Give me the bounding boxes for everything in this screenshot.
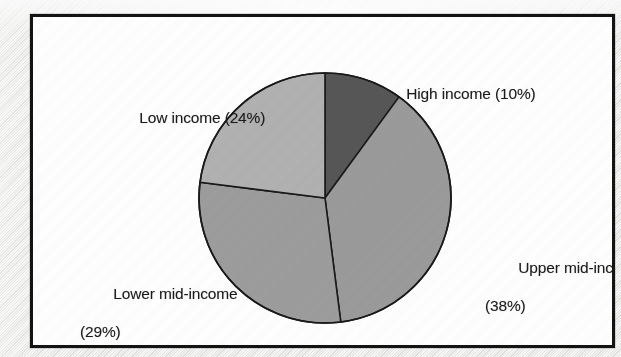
- figure-frame: High income (10%) Low income (24%) Upper…: [30, 14, 615, 348]
- figure-plot-area: High income (10%) Low income (24%) Upper…: [33, 17, 612, 345]
- pie-label-upper-mid-income-line2: (38%): [485, 296, 612, 315]
- pie-label-lower-mid-income: Lower mid-income (29%): [80, 265, 238, 345]
- pie-label-lower-mid-income-line1: Lower mid-income: [113, 285, 237, 302]
- pie-label-low-income: Low income (24%): [106, 89, 265, 146]
- pie-label-low-income-text: Low income (24%): [139, 109, 265, 126]
- pie-label-upper-mid-income-line1: Upper mid-income: [518, 259, 612, 276]
- pie-label-upper-mid-income: Upper mid-income (38%): [485, 239, 612, 345]
- pie-label-high-income-text: High income (10%): [406, 85, 535, 102]
- pie-label-high-income: High income (10%): [373, 65, 536, 122]
- scanned-page: High income (10%) Low income (24%) Upper…: [0, 0, 621, 357]
- pie-label-lower-mid-income-line2: (29%): [80, 322, 238, 341]
